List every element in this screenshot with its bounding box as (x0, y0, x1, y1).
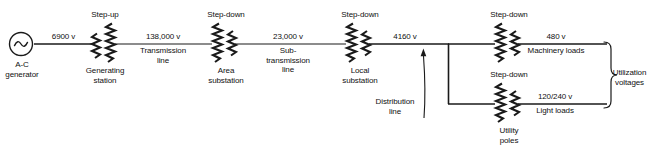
voltage-transmission-line: 138,000 v (130, 32, 196, 42)
station-label-local-substation: Local substation (332, 66, 388, 85)
transformer-local-substation (347, 24, 370, 63)
transformer-type-machinery: Step-down (484, 10, 534, 20)
station-label-generating-station: Generating station (78, 66, 132, 85)
transformer-area-substation (213, 24, 236, 63)
voltage-distribution-line: 4160 v (382, 32, 428, 42)
station-label-area-substation: Area substation (198, 66, 254, 85)
line-label-transmission-line: Transmission line (129, 46, 197, 65)
transformer-type-area-substation: Step-down (201, 10, 251, 20)
ac-generator-icon (10, 33, 33, 56)
ac-generator-label: A-C generator (0, 60, 44, 79)
line-label-subtransmission-line: Sub- transmission line (254, 46, 322, 75)
transformer-type-local-substation: Step-down (335, 10, 385, 20)
transformer-utility-poles (496, 84, 519, 123)
voltage-generator-output: 6900 v (41, 32, 86, 42)
voltage-lighting-branch: 120/240 v (526, 92, 584, 102)
transformer-machinery (496, 24, 519, 63)
transformer-type-utility-poles: Step-down (484, 70, 534, 80)
transformer-generating-station (92, 24, 115, 63)
load-label-light: Light loads (527, 106, 583, 116)
line-label-distribution-line: Distribution line (367, 97, 423, 116)
utilization-voltages-label: Utilization voltages (606, 68, 653, 87)
transformer-type-generating-station: Step-up (81, 10, 129, 20)
station-label-utility-poles: Utility poles (482, 126, 536, 145)
voltage-machinery-branch: 480 v (534, 32, 578, 42)
voltage-subtransmission-line: 23,000 v (256, 32, 320, 42)
load-label-machinery: Machinery loads (522, 46, 590, 56)
